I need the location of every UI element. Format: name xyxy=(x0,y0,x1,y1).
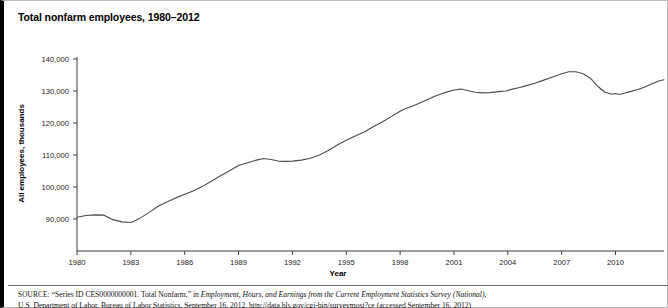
line-chart-svg: 90,000100,000110,000120,000130,000140,00… xyxy=(4,39,668,269)
source-label: SOURCE: xyxy=(18,291,50,299)
x-tick-label: 1980 xyxy=(69,258,86,267)
x-tick-label: 2007 xyxy=(553,258,570,267)
x-tick-label: 1986 xyxy=(176,258,193,267)
x-tick-label: 1989 xyxy=(230,258,247,267)
plot-area: 90,000100,000110,000120,000130,000140,00… xyxy=(4,39,668,269)
data-series-line xyxy=(77,72,664,223)
source-line1-italic: Employment, Hours, and Earnings from the… xyxy=(201,290,487,299)
chart-figure: Total nonfarm employees, 1980–2012 90,00… xyxy=(0,0,668,308)
source-divider xyxy=(8,285,668,286)
source-line1-plain: “Series ID CES0000000001. Total Nonfarm,… xyxy=(50,290,201,299)
x-tick-label: 1995 xyxy=(338,258,355,267)
y-tick-label: 130,000 xyxy=(42,87,69,96)
y-tick-label: 110,000 xyxy=(42,151,69,160)
source-note: SOURCE: “Series ID CES0000000001. Total … xyxy=(18,290,666,308)
page-title: Total nonfarm employees, 1980–2012 xyxy=(18,11,199,23)
y-axis-title: All employees, thousands xyxy=(17,79,26,229)
x-axis-title: Year xyxy=(4,269,668,278)
y-tick-label: 120,000 xyxy=(42,119,69,128)
y-tick-label: 140,000 xyxy=(42,55,69,64)
x-tick-label: 2001 xyxy=(446,258,463,267)
x-tick-label: 1983 xyxy=(122,258,139,267)
y-tick-label: 90,000 xyxy=(46,215,69,224)
x-tick-label: 1992 xyxy=(284,258,301,267)
x-axis-ticks: 1980198319861989199219951998200120042007… xyxy=(69,251,624,267)
x-tick-label: 2004 xyxy=(499,258,516,267)
x-tick-label: 1998 xyxy=(392,258,409,267)
y-tick-label: 100,000 xyxy=(42,183,69,192)
x-tick-label: 2010 xyxy=(607,258,624,267)
source-line2: U.S. Department of Labor, Bureau of Labo… xyxy=(18,301,471,308)
y-axis-ticks: 90,000100,000110,000120,000130,000140,00… xyxy=(42,55,77,224)
